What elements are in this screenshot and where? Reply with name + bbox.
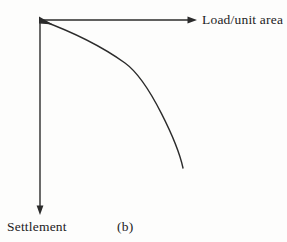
figure-canvas: Load/unit area Settlement (b) bbox=[0, 0, 287, 242]
load-settlement-figure: Load/unit area Settlement (b) bbox=[0, 0, 287, 242]
x-axis-label: Load/unit area bbox=[202, 12, 283, 27]
x-axis-arrowhead-icon bbox=[188, 17, 198, 24]
y-axis-arrowhead-icon bbox=[37, 206, 44, 216]
y-axis-label: Settlement bbox=[7, 219, 67, 234]
settlement-curve bbox=[40, 20, 183, 168]
figure-caption: (b) bbox=[117, 219, 133, 234]
